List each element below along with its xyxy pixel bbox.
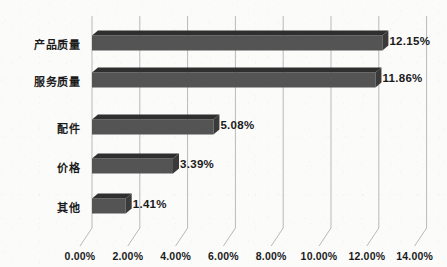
category-label: 服务质量 <box>34 73 80 89</box>
x-tick-label: 14.00% <box>385 250 445 262</box>
bar-front-face <box>92 199 126 214</box>
data-label: 11.86% <box>382 72 422 84</box>
bar <box>92 68 381 88</box>
category-label: 配件 <box>57 120 80 136</box>
data-label: 5.08% <box>220 119 254 131</box>
bar-chart: 产品质量服务质量配件价格其他 12.15%11.86%5.08%3.39%1.4… <box>0 0 447 267</box>
bar <box>92 31 388 51</box>
bar-top-face <box>92 154 179 159</box>
category-label: 产品质量 <box>34 36 80 52</box>
bar-front-face <box>92 36 382 51</box>
category-label: 其他 <box>57 199 80 215</box>
data-label: 3.39% <box>180 158 214 170</box>
bar-top-face <box>92 194 132 199</box>
bar <box>92 115 219 135</box>
data-label: 12.15% <box>389 35 430 47</box>
data-label: 1.41% <box>133 198 167 210</box>
bar-front-face <box>92 159 173 174</box>
bar-top-face <box>92 68 381 73</box>
bar-front-face <box>92 73 375 88</box>
bar <box>92 154 179 174</box>
bar-top-face <box>92 115 219 120</box>
bar-front-face <box>92 120 213 135</box>
bar-top-face <box>92 31 388 36</box>
bar <box>92 194 132 214</box>
category-label: 价格 <box>57 159 80 175</box>
